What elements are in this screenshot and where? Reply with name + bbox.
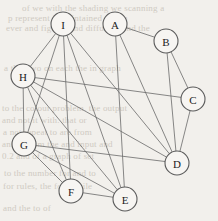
graph-edge-DH [33,82,166,157]
graph-edge-FH [28,87,67,180]
node-label-C: C [189,94,196,106]
graph-node-C: C [181,87,205,111]
graph-node-E: E [113,187,137,211]
node-label-F: F [68,186,74,198]
node-label-B: B [162,36,169,48]
node-label-D: D [173,158,181,170]
graph-edge-EF [83,193,113,197]
graph-canvas: ABCDEFGHI [0,0,218,221]
graph-node-B: B [154,29,178,53]
graph-node-I: I [51,12,75,36]
graph-edge-BC [171,52,188,88]
graph-figure: of we with the shading we scanning ap re… [0,0,218,221]
graph-edge-CD [180,111,190,152]
node-label-I: I [61,19,65,31]
graph-node-H: H [11,64,35,88]
graph-edge-HI [30,34,55,67]
graph-node-G: G [12,132,36,156]
node-label-G: G [20,139,28,151]
graph-edge-AB [126,28,154,37]
graph-edge-CH [35,78,181,98]
graph-edge-BD [167,53,176,151]
graph-edge-FI [64,36,71,179]
graph-edge-EH [31,85,118,190]
node-layer: ABCDEFGHI [11,12,205,211]
node-label-A: A [111,19,119,31]
graph-node-F: F [59,179,83,203]
graph-edge-AE [116,36,125,187]
graph-edge-EI [67,35,121,187]
graph-node-A: A [103,12,127,36]
node-label-E: E [122,194,129,206]
node-label-H: H [19,71,27,83]
graph-edge-GH [23,88,24,132]
graph-node-D: D [165,151,189,175]
